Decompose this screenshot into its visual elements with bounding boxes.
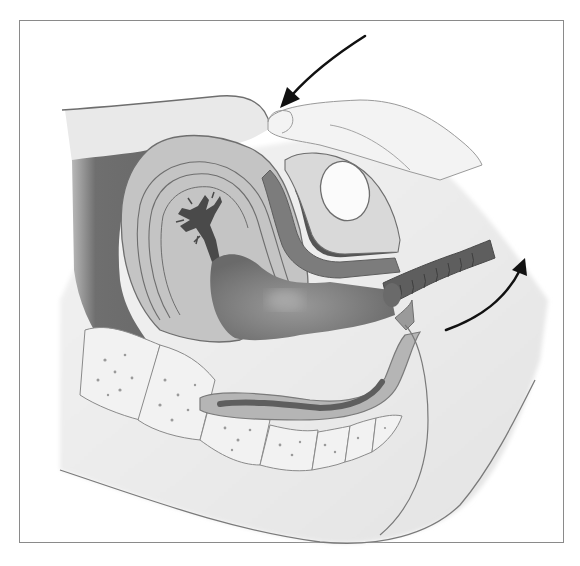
pelvic-exam-illustration <box>0 0 580 566</box>
downward-pressure-arrow <box>280 36 365 108</box>
